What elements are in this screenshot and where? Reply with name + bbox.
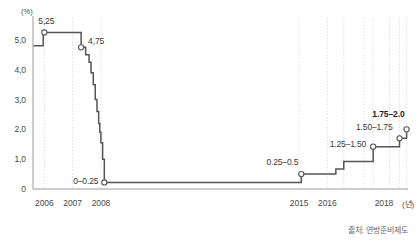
x-tick-2016: 2016 xyxy=(310,198,344,208)
y-tick-3: 3,0 xyxy=(2,95,26,105)
annotation-0-25-0-5: 0.25–0.5 xyxy=(266,157,298,167)
annotation-5-25: 5,25 xyxy=(38,16,54,26)
y-tick-2: 2,0 xyxy=(2,124,26,134)
y-tick-5: 5,0 xyxy=(2,35,26,45)
y-tick-4: 4,0 xyxy=(2,65,26,75)
annotation-1-25-1-50: 1.25–1.50 xyxy=(330,139,366,149)
annotation-0-0-25: 0–0.25 xyxy=(73,176,98,186)
rate-step-line xyxy=(34,32,407,182)
x-tick-2018: 2018 xyxy=(367,198,401,208)
chart-container: (%) 01,02,03,04,05,0 2006200720082015201… xyxy=(0,0,418,242)
y-tick-0: 0 xyxy=(2,184,26,194)
annotation-1-75-2-0: 1.75–2.0 xyxy=(372,109,404,119)
x-tick-2008: 2008 xyxy=(84,198,118,208)
source-note: 출처: 연방준비제도 xyxy=(348,224,408,235)
x-axis-unit-label: (년) xyxy=(402,198,414,209)
y-tick-1: 1,0 xyxy=(2,154,26,164)
y-axis-unit-label: (%) xyxy=(21,7,33,16)
annotation-4-75: 4,75 xyxy=(88,36,104,46)
annotation-1-50-1-75: 1.50–1.75 xyxy=(356,122,392,132)
